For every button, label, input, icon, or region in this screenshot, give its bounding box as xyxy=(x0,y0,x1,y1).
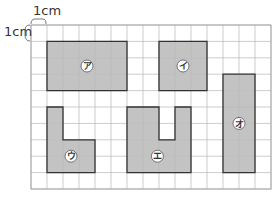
horizontal-scale-label: 1cm xyxy=(33,3,61,18)
svg-text:エ: エ xyxy=(153,151,162,161)
shape-u-label: ウ xyxy=(65,150,77,162)
svg-text:オ: オ xyxy=(235,119,244,129)
shape-o-label: オ xyxy=(233,117,245,129)
scale-annotation: 1cm 1cm xyxy=(4,3,61,41)
vertical-scale-label: 1cm xyxy=(4,24,32,39)
svg-text:ウ: ウ xyxy=(67,151,76,161)
shape-e-label: エ xyxy=(151,150,163,162)
svg-text:イ: イ xyxy=(179,61,188,71)
shape-a-label: ア xyxy=(81,60,93,72)
shape-i-label: イ xyxy=(177,60,189,72)
horizontal-brace-icon xyxy=(31,19,46,24)
grid-diagram: アイウエオ 1cm 1cm xyxy=(0,0,279,197)
svg-text:ア: ア xyxy=(83,61,92,71)
